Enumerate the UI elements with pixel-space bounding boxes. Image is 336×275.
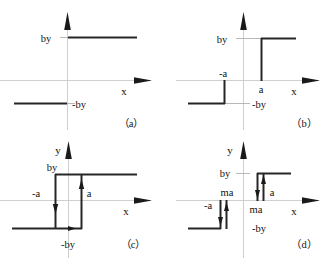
- label-yaxis-c: y: [55, 144, 61, 156]
- label-negby-a: -by: [72, 99, 87, 110]
- label-a-b: a: [259, 84, 264, 95]
- caption-b: （b）: [291, 118, 316, 129]
- y-axis-arrowhead-a: [64, 12, 71, 30]
- label-by-a: by: [41, 33, 52, 44]
- caption-a: （a）: [119, 118, 144, 129]
- panel-c: y by -a a -by x （c）: [0, 138, 168, 275]
- label-ma-left-d: ma: [221, 187, 234, 198]
- label-nega-c: -a: [32, 188, 40, 199]
- label-xaxis-a: x: [121, 85, 127, 97]
- y-axis-arrowhead-b: [240, 12, 247, 30]
- y-axis-arrowhead-c: [65, 141, 72, 159]
- x-axis-arrowhead-a: [134, 77, 152, 84]
- label-a-c: a: [87, 188, 92, 199]
- label-nega-d: -a: [204, 200, 212, 211]
- y-axis-arrowhead-d: [240, 141, 247, 159]
- down-arrow-left-outer-d: [218, 217, 223, 226]
- label-negby-c: -by: [61, 239, 76, 250]
- label-by-c: by: [47, 162, 58, 173]
- label-a-d: a: [270, 187, 275, 198]
- label-nega-b: -a: [219, 68, 227, 79]
- x-axis-arrowhead-c: [134, 197, 152, 204]
- label-xaxis-b: x: [291, 85, 297, 97]
- down-arrow-left-riser-c: [53, 204, 58, 214]
- label-by-b: by: [217, 34, 228, 45]
- panel-a: by -by x （a）: [0, 0, 168, 137]
- right-arrow-lower-branch-c: [68, 226, 76, 231]
- x-axis-arrowhead-b: [302, 77, 320, 84]
- label-xaxis-d: x: [291, 205, 297, 217]
- label-ma-right-d: ma: [250, 204, 263, 215]
- figure-root: by -by x （a） by -a a -by x （b）: [0, 0, 336, 275]
- x-axis-arrowhead-d: [302, 197, 320, 204]
- label-by-d: by: [220, 168, 231, 179]
- panel-b: by -a a -by x （b）: [168, 0, 336, 137]
- panel-d: y by ma -a ma a -by x （d）: [168, 138, 336, 275]
- caption-c: （c）: [121, 239, 146, 250]
- label-negby-b: -by: [252, 99, 267, 110]
- down-arrow-right-inner-d: [255, 190, 260, 199]
- label-negby-d: -by: [252, 223, 267, 234]
- up-arrow-right-outer-d: [261, 175, 266, 184]
- caption-d: （d）: [291, 239, 316, 250]
- label-xaxis-c: x: [123, 205, 129, 217]
- label-yaxis-d: y: [227, 144, 233, 156]
- up-arrow-left-inner-d: [224, 202, 229, 211]
- up-arrow-right-riser-c: [79, 179, 84, 189]
